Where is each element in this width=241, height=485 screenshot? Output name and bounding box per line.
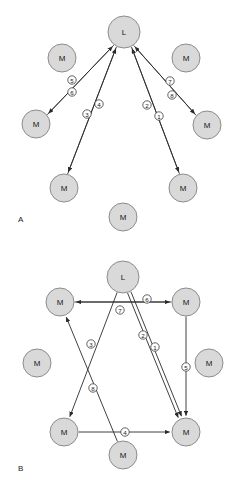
node-label: M [183,298,190,307]
edge-tag-B-e8: 8 [89,384,97,392]
node-A-M6[interactable]: M [169,174,197,202]
edge-tag-A-e4: 4 [95,100,103,108]
node-label: M [180,184,187,193]
edge-tag-A-e5: 5 [68,76,76,84]
edge-B-e2 [128,293,179,417]
node-label: M [120,451,127,460]
edge-tag-label: 1 [157,113,161,120]
node-A-M7[interactable]: M [109,203,137,231]
node-label: M [59,54,66,63]
edge-tag-B-e1: 1 [151,343,159,351]
node-label: M [34,359,41,368]
node-B-M5[interactable]: M [50,418,78,446]
node-label: L [122,28,127,37]
node-label: M [61,428,68,437]
node-label: M [183,54,190,63]
node-B-M6[interactable]: M [172,418,200,446]
edge-tag-B-e3: 3 [87,340,95,348]
node-label: M [206,359,213,368]
node-B-L[interactable]: L [107,261,139,293]
edge-tag-A-e8: 8 [168,91,176,99]
edge-tag-label: 5 [184,364,188,371]
node-A-M3[interactable]: M [22,110,50,138]
node-B-M3[interactable]: M [23,349,51,377]
nodes-layer: LMMMMMMMLMMMMMMM [22,16,223,469]
figure-root: LMMMMMMMLMMMMMMM 5634217812345678 AB [0,0,241,485]
edge-tag-label: 2 [145,102,149,109]
node-B-M7[interactable]: M [109,441,137,469]
edge-tag-label: 3 [85,111,89,118]
edge-tag-B-e7: 7 [116,306,124,314]
panel-letters-layer: AB [18,215,24,473]
edge-tag-label: 3 [89,341,93,348]
edge-tag-B-e4: 4 [121,428,129,436]
edge-tag-B-e6: 6 [143,295,151,303]
node-B-M1[interactable]: M [46,288,74,316]
tags-layer: 5634217812345678 [68,76,190,436]
edge-tag-label: 4 [97,101,101,108]
node-A-M1[interactable]: M [48,44,76,72]
edges-layer [47,45,196,441]
edge-B-e3 [70,292,117,416]
edge-tag-A-e7: 7 [166,77,174,85]
edge-tag-label: 7 [118,307,122,314]
edge-tag-label: 6 [145,296,149,303]
edge-tag-label: 8 [91,385,95,392]
node-A-M5[interactable]: M [50,174,78,202]
node-label: M [33,120,40,129]
node-B-M2[interactable]: M [172,288,200,316]
node-B-M4[interactable]: M [195,349,223,377]
node-A-M4[interactable]: M [193,111,221,139]
edge-tag-B-e5: 5 [182,363,190,371]
node-label: M [204,121,211,130]
edge-tag-label: 7 [168,78,172,85]
node-label: M [61,184,68,193]
node-A-M2[interactable]: M [172,44,200,72]
edge-B-e1 [131,292,182,416]
edge-A-e4 [68,47,116,172]
edge-tag-A-e3: 3 [83,110,91,118]
edge-tag-label: 2 [141,332,145,339]
edge-tag-label: 6 [70,89,74,96]
panel-letter-a: A [18,215,24,224]
edge-tag-label: 4 [123,429,127,436]
panel-letter-b: B [18,464,23,473]
edge-tag-A-e6: 6 [68,88,76,96]
network-topology-figure: LMMMMMMMLMMMMMMM 5634217812345678 AB [0,0,241,485]
edge-tag-label: 1 [153,344,157,351]
edge-tag-B-e2: 2 [139,331,147,339]
edge-A-e1 [131,47,178,172]
node-label: M [120,213,127,222]
edge-tag-label: 5 [70,77,74,84]
edge-tag-A-e2: 2 [143,101,151,109]
node-label: L [121,273,126,282]
node-A-L[interactable]: L [108,16,140,48]
edge-tag-A-e1: 1 [155,112,163,120]
node-label: M [57,298,64,307]
node-label: M [183,428,190,437]
edge-tag-label: 8 [170,92,174,99]
